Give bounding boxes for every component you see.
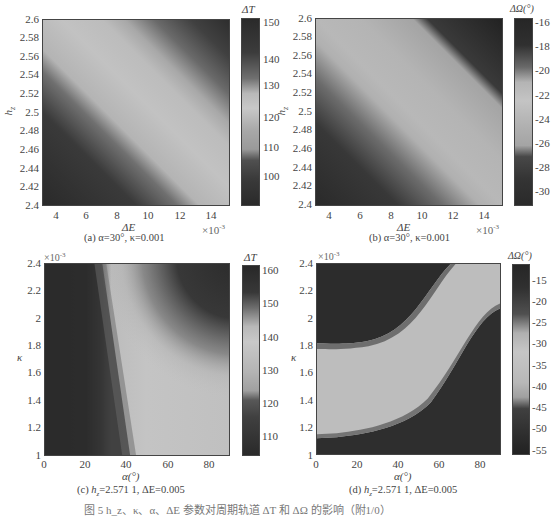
colorbar-d-label: ΔΩ(°) [508,251,532,261]
xtick-a: 8 [105,210,129,221]
cbar-d-tick: -40 [532,381,547,392]
heatmap-d [316,263,501,455]
colorbar-c-label: ΔT [244,252,257,263]
ytick-c: 1.4 [11,395,41,406]
cbar-b-tick: -30 [535,186,550,197]
ytick-c: 1.2 [11,422,41,433]
ytick-a: 2.6 [9,14,39,25]
ytick-b: 2.6 [282,13,312,24]
heatmap-a [42,19,230,206]
ytick-a: 2.52 [9,88,39,99]
xtick-a: 14 [199,210,223,221]
colorbar-b [514,18,533,206]
heatmap-c-image [45,264,229,455]
ytick-b: 2.58 [282,31,312,42]
xtick-b: 12 [441,210,465,221]
xtick-a: 10 [136,210,160,221]
ytick-b: 2.42 [282,180,312,191]
ytick-d: 1.8 [283,340,313,351]
caption-b: (b) α=30°, κ=0.001 [369,233,450,244]
colorbar-a [241,18,260,206]
xtick-d: 80 [468,459,492,470]
cbar-b-tick: -24 [535,114,550,125]
ytick-c: 2.2 [11,285,41,296]
cbar-c-tick: 130 [262,365,279,376]
ytick-a: 2.56 [9,51,39,62]
multiplier-b: ×10-3 [476,224,499,236]
cbar-b-tick: -16 [535,17,550,28]
heatmap-b [315,18,503,206]
xtick-d: 20 [345,459,369,470]
heatmap-b-image [316,19,502,205]
ytick-a: 2.48 [9,125,39,136]
ytick-b: 2.48 [282,124,312,135]
cbar-b-tick: -22 [535,90,550,101]
xtick-d: 0 [304,459,328,470]
cbar-d-tick: -50 [532,423,547,434]
xtick-a: 12 [168,210,192,221]
xlabel-d: α(°) [394,471,412,482]
ylabel-c: κ [17,352,22,363]
cbar-d-tick: -30 [532,338,547,349]
cbar-b-tick: -18 [535,41,550,52]
ytick-d: 1.4 [283,395,313,406]
xtick-d: 60 [427,459,451,470]
xtick-c: 60 [156,459,180,470]
cbar-c-tick: 150 [262,298,279,309]
cbar-d-tick: -35 [532,360,547,371]
heatmap-d-image [317,264,500,454]
xtick-a: 6 [74,210,98,221]
ytick-a: 2.42 [9,181,39,192]
ytick-a: 2.58 [9,32,39,43]
ytick-c: 2 [11,313,41,324]
xtick-a: 4 [44,210,68,221]
ytick-a: 2.4 [9,200,39,211]
cbar-d-tick: -45 [532,402,547,413]
ylabel-a: hz [3,107,17,116]
cbar-d-tick: -55 [532,445,547,456]
cbar-d-tick: -15 [532,275,547,286]
ytick-d: 1.2 [283,422,313,433]
multiplier-c: ×10-3 [44,252,65,263]
cbar-a-tick: 100 [263,171,280,182]
multiplier-a: ×10-3 [202,224,225,236]
ytick-b: 2.44 [282,162,312,173]
cbar-d-tick: -20 [532,296,547,307]
heatmap-c [44,263,230,456]
cbar-a-tick: 140 [263,54,280,65]
ytick-b: 2.46 [282,143,312,154]
xlabel-c: α(°) [122,471,140,482]
ytick-a: 2.44 [9,163,39,174]
caption-a: (a) α=30°, κ=0.001 [84,233,165,244]
ylabel-d: κ [291,352,296,363]
xtick-b: 8 [379,210,403,221]
cbar-c-tick: 110 [262,431,278,442]
ytick-d: 2.4 [283,258,313,269]
multiplier-d: ×10-3 [318,251,339,262]
ytick-b: 2.52 [282,87,312,98]
cbar-b-tick: -26 [535,138,550,149]
cbar-a-tick: 150 [263,17,280,28]
ytick-c: 1.6 [11,367,41,378]
colorbar-a-label: ΔT [242,4,255,15]
xtick-b: 14 [472,210,496,221]
colorbar-d [512,264,530,455]
ytick-b: 2.4 [282,199,312,210]
ytick-d: 1.6 [283,367,313,378]
xtick-b: 10 [410,210,434,221]
cbar-b-tick: -28 [535,162,550,173]
cbar-b-tick: -20 [535,65,550,76]
xtick-d: 40 [386,459,410,470]
ytick-b: 2.56 [282,50,312,61]
caption-c: (c) hz=2.571 1, ΔE=0.005 [77,485,185,498]
cbar-a-tick: 130 [263,80,280,91]
ytick-d: 2.2 [283,285,313,296]
cbar-d-tick: -25 [532,317,547,328]
caption-d: (d) hz=2.571 1, ΔE=0.005 [349,485,457,498]
xtick-c: 80 [197,459,221,470]
cbar-a-tick: 110 [263,142,279,153]
ylabel-b: hz [276,107,290,116]
heatmap-a-image [43,20,229,205]
colorbar-c [242,265,260,456]
cbar-c-tick: 140 [262,332,279,343]
